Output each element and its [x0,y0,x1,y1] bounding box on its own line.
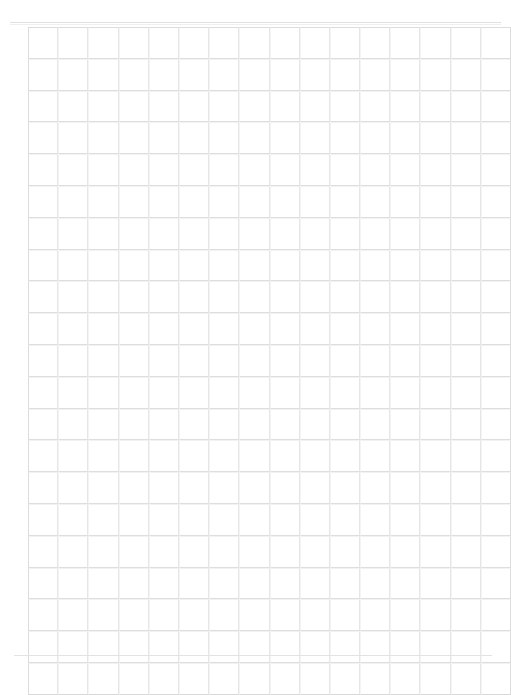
grid-cell[interactable] [420,186,450,218]
grid-cell[interactable] [390,122,420,154]
grid-cell[interactable] [270,281,300,313]
grid-cell[interactable] [88,504,118,536]
grid-cell[interactable] [300,568,330,600]
grid-cell[interactable] [179,250,209,282]
grid-cell[interactable] [58,313,88,345]
grid-cell[interactable] [330,568,360,600]
grid-cell[interactable] [451,250,481,282]
grid-cell[interactable] [209,218,239,250]
grid-cell[interactable] [451,186,481,218]
grid-cell[interactable] [119,377,149,409]
grid-cell[interactable] [451,536,481,568]
grid-cell[interactable] [390,345,420,377]
grid-cell[interactable] [28,186,58,218]
grid-cell[interactable] [239,91,269,123]
grid-cell[interactable] [28,504,58,536]
grid-cell[interactable] [390,91,420,123]
grid-cell[interactable] [149,568,179,600]
grid-cell[interactable] [330,122,360,154]
grid-cell[interactable] [330,345,360,377]
grid-cell[interactable] [420,281,450,313]
grid-cell[interactable] [88,345,118,377]
grid-cell[interactable] [420,599,450,631]
grid-cell[interactable] [390,663,420,695]
grid-cell[interactable] [390,504,420,536]
grid-cell[interactable] [179,568,209,600]
grid-cell[interactable] [390,59,420,91]
grid-cell[interactable] [179,663,209,695]
grid-cell[interactable] [58,91,88,123]
grid-cell[interactable] [119,504,149,536]
grid-cell[interactable] [149,472,179,504]
grid-cell[interactable] [149,631,179,663]
grid-cell[interactable] [58,409,88,441]
grid-cell[interactable] [300,663,330,695]
grid-cell[interactable] [420,250,450,282]
grid-cell[interactable] [58,536,88,568]
grid-cell[interactable] [420,568,450,600]
grid-cell[interactable] [451,663,481,695]
grid-cell[interactable] [179,599,209,631]
grid-cell[interactable] [149,154,179,186]
grid-cell[interactable] [119,663,149,695]
grid-cell[interactable] [179,409,209,441]
grid-cell[interactable] [209,440,239,472]
grid-cell[interactable] [209,91,239,123]
grid-cell[interactable] [179,377,209,409]
grid-cell[interactable] [119,409,149,441]
grid-cell[interactable] [239,504,269,536]
grid-cell[interactable] [360,599,390,631]
grid-cell[interactable] [481,59,511,91]
grid-cell[interactable] [390,536,420,568]
grid-cell[interactable] [58,568,88,600]
grid-cell[interactable] [451,377,481,409]
grid-cell[interactable] [239,154,269,186]
grid-cell[interactable] [28,472,58,504]
grid-cell[interactable] [58,345,88,377]
grid-cell[interactable] [239,59,269,91]
grid-cell[interactable] [88,250,118,282]
grid-cell[interactable] [481,281,511,313]
grid-cell[interactable] [270,377,300,409]
grid-cell[interactable] [481,472,511,504]
grid-cell[interactable] [360,122,390,154]
grid-cell[interactable] [481,663,511,695]
grid-cell[interactable] [239,27,269,59]
grid-cell[interactable] [300,631,330,663]
grid-cell[interactable] [28,599,58,631]
grid-cell[interactable] [28,122,58,154]
grid-cell[interactable] [239,409,269,441]
grid-cell[interactable] [360,536,390,568]
grid-cell[interactable] [270,663,300,695]
grid-cell[interactable] [28,409,58,441]
grid-cell[interactable] [58,377,88,409]
grid-cell[interactable] [300,281,330,313]
grid-cell[interactable] [300,59,330,91]
grid-cell[interactable] [420,345,450,377]
grid-cell[interactable] [330,631,360,663]
grid-cell[interactable] [330,218,360,250]
grid-cell[interactable] [119,122,149,154]
grid-cell[interactable] [330,599,360,631]
grid-cell[interactable] [88,472,118,504]
grid-cell[interactable] [270,536,300,568]
grid-cell[interactable] [420,536,450,568]
grid-cell[interactable] [420,122,450,154]
grid-cell[interactable] [300,154,330,186]
grid-cell[interactable] [451,345,481,377]
grid-cell[interactable] [179,536,209,568]
grid-cell[interactable] [209,504,239,536]
grid-cell[interactable] [119,472,149,504]
grid-cell[interactable] [239,536,269,568]
grid-cell[interactable] [270,186,300,218]
grid-cell[interactable] [390,568,420,600]
grid-cell[interactable] [119,281,149,313]
grid-cell[interactable] [88,218,118,250]
grid-cell[interactable] [149,59,179,91]
grid-cell[interactable] [28,440,58,472]
grid-cell[interactable] [390,409,420,441]
grid-cell[interactable] [239,440,269,472]
grid-cell[interactable] [119,250,149,282]
grid-cell[interactable] [119,568,149,600]
grid-cell[interactable] [149,91,179,123]
